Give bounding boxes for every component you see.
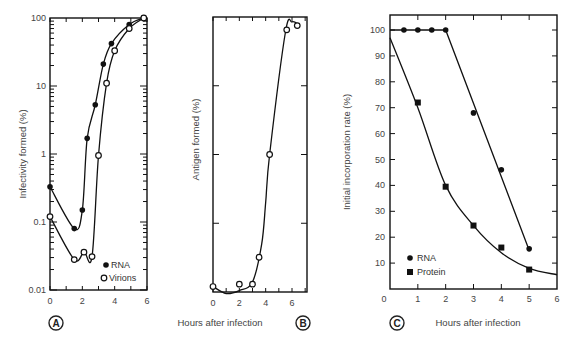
- point-rna: [47, 184, 53, 190]
- y-tick-label: 20: [375, 232, 385, 242]
- point-rna: [499, 167, 505, 173]
- point-virions: [112, 48, 118, 54]
- point-protein: [526, 267, 532, 273]
- curve-rna: [50, 18, 144, 230]
- panel-c: 1020304050607080901000123456Initial inco…: [341, 15, 560, 304]
- x-tick-label: 6: [144, 296, 149, 306]
- y-tick-label: 40: [375, 180, 385, 190]
- curve-antigen: [213, 19, 299, 293]
- point-antigen: [294, 23, 300, 29]
- point-virions: [104, 80, 110, 86]
- point-rna: [92, 102, 98, 108]
- legend-marker-virions: [101, 275, 107, 281]
- legend-marker-rna: [103, 262, 109, 268]
- y-tick-label: 100: [31, 13, 46, 23]
- legend-marker-protein: [407, 269, 413, 275]
- point-virions: [141, 15, 147, 21]
- plot-frame: [390, 15, 557, 289]
- point-antigen: [210, 284, 216, 290]
- x-axis-label-c: Hours after infection: [435, 317, 520, 328]
- y-tick-label: 70: [375, 103, 385, 113]
- svg-text:A: A: [52, 318, 59, 329]
- panel-a: 0.010.11101000246Infectivity formed (%)R…: [17, 13, 150, 306]
- point-virions: [71, 257, 77, 263]
- x-tick-label: 2: [80, 296, 85, 306]
- curve-rna: [390, 30, 529, 250]
- point-virions: [96, 153, 102, 159]
- point-rna: [526, 246, 532, 252]
- x-tick-label: 2: [443, 294, 448, 304]
- y-tick-label: 30: [375, 206, 385, 216]
- x-axis-label-ab: Hours after infection: [177, 317, 262, 328]
- svg-text:B: B: [299, 318, 306, 329]
- svg-text:RNA: RNA: [111, 260, 130, 270]
- y-tick-label: 0.1: [33, 217, 46, 227]
- point-rna: [443, 27, 449, 33]
- y-axis-label: Antigen formed (%): [190, 99, 201, 181]
- point-rna: [80, 207, 86, 213]
- x-tick-label: 1: [415, 294, 420, 304]
- curve-virions: [50, 18, 144, 263]
- x-tick-label: 6: [554, 294, 559, 304]
- point-rna: [109, 41, 115, 47]
- y-tick-label: 60: [375, 129, 385, 139]
- y-tick-label: 1: [41, 149, 46, 159]
- point-virions: [47, 214, 53, 220]
- svg-text:C: C: [393, 318, 400, 329]
- y-tick-label: 50: [375, 155, 385, 165]
- svg-text:RNA: RNA: [417, 253, 436, 263]
- panel-label-a: A: [49, 316, 63, 330]
- svg-text:Protein: Protein: [417, 267, 446, 277]
- point-antigen: [237, 281, 243, 287]
- x-tick-label: 0: [210, 298, 215, 308]
- y-tick-label: 10: [375, 258, 385, 268]
- x-tick-label: 4: [112, 296, 117, 306]
- point-rna: [415, 27, 421, 33]
- y-tick-label: 100: [370, 25, 385, 35]
- x-tick-label: 6: [289, 298, 294, 308]
- x-tick-label: 3: [471, 294, 476, 304]
- y-tick-label: 10: [36, 81, 46, 91]
- point-antigen: [256, 254, 262, 260]
- point-protein: [443, 184, 449, 190]
- y-tick-label: 80: [375, 77, 385, 87]
- x-tick-label: 2: [237, 298, 242, 308]
- point-rna: [84, 136, 90, 142]
- y-axis-label: Initial incorporation rate (%): [341, 94, 352, 210]
- point-rna: [401, 27, 407, 33]
- legend: RNAProtein: [407, 253, 446, 277]
- legend: RNAVirions: [101, 260, 137, 283]
- point-rna: [471, 110, 477, 116]
- y-tick-label: 90: [375, 51, 385, 61]
- panel-label-b: B: [296, 316, 310, 330]
- x-tick-label: 0: [381, 294, 386, 304]
- x-tick-label: 4: [499, 294, 504, 304]
- point-protein: [415, 100, 421, 106]
- y-axis-label: Infectivity formed (%): [17, 109, 28, 198]
- point-protein: [471, 223, 477, 229]
- svg-text:Virions: Virions: [109, 273, 137, 283]
- panel-b: 0246Antigen formed (%): [190, 17, 307, 308]
- curve-protein: [390, 38, 557, 275]
- point-virions: [89, 254, 95, 260]
- x-tick-label: 5: [527, 294, 532, 304]
- point-rna: [429, 27, 435, 33]
- legend-marker-rna: [407, 255, 413, 261]
- point-rna: [71, 226, 77, 232]
- point-antigen: [284, 27, 290, 33]
- figure-canvas: 0.010.11101000246Infectivity formed (%)R…: [0, 0, 571, 343]
- point-antigen: [267, 152, 273, 158]
- x-tick-label: 4: [263, 298, 268, 308]
- point-rna: [101, 61, 107, 67]
- point-virions: [126, 26, 132, 32]
- point-protein: [498, 245, 504, 251]
- y-tick-label: 0.01: [28, 285, 46, 295]
- point-virions: [81, 249, 87, 255]
- point-antigen: [250, 281, 256, 287]
- x-tick-label: 0: [47, 296, 52, 306]
- panel-label-c: C: [390, 316, 404, 330]
